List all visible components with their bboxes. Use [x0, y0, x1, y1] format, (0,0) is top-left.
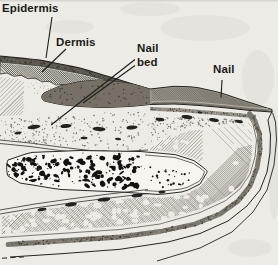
figure-drawing — [0, 0, 278, 265]
nail-label: Nail — [213, 63, 235, 76]
nail-bed-label-line1: Nail — [137, 42, 159, 56]
dermis-label: Dermis — [56, 36, 96, 49]
nail-anatomy-figure: Epidermis Dermis Nailbed Nail — [0, 0, 278, 265]
nail-bed-label-line2: bed — [137, 56, 159, 70]
nail-bed-label: Nailbed — [137, 42, 159, 69]
epidermis-label: Epidermis — [2, 2, 59, 15]
